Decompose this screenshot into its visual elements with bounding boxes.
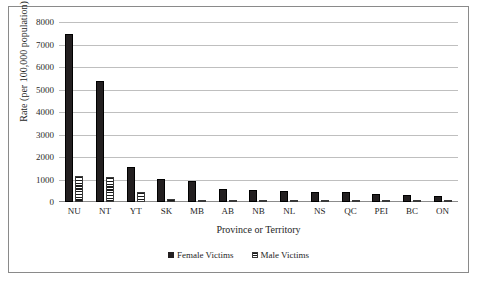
- bar-group: [243, 22, 274, 202]
- legend-item-male: Male Victims: [252, 250, 310, 260]
- x-tick-label: AB: [212, 206, 243, 216]
- bar-female: [188, 181, 196, 202]
- bar-female: [157, 179, 165, 202]
- bar-group: [427, 22, 458, 202]
- x-tick-label: BC: [397, 206, 428, 216]
- x-tick-label: SK: [151, 206, 182, 216]
- bar-female: [219, 189, 227, 202]
- bar-male: [444, 200, 452, 202]
- bar-group: [59, 22, 90, 202]
- x-tick-label: YT: [120, 206, 151, 216]
- y-tick-label: 2000: [36, 153, 54, 162]
- bar-male: [413, 200, 421, 202]
- x-tick-label: NT: [90, 206, 121, 216]
- bar-male: [290, 200, 298, 202]
- bar-group: [335, 22, 366, 202]
- y-tick-label: 8000: [36, 18, 54, 27]
- chart-figure: Rate (per 100,000 population) 8000 7000 …: [0, 0, 477, 285]
- y-tick-label: 7000: [36, 41, 54, 50]
- y-tick-label: 0: [50, 198, 55, 207]
- bar-male: [137, 192, 145, 202]
- bar-female: [65, 34, 73, 202]
- y-tick-label: 1000: [36, 176, 54, 185]
- bar-group: [151, 22, 182, 202]
- x-tick-label: PEI: [366, 206, 397, 216]
- y-tick-label: 6000: [36, 63, 54, 72]
- bar-male: [229, 200, 237, 202]
- y-axis-tick-labels: 8000 7000 6000 5000 4000 3000 2000 1000 …: [20, 22, 54, 202]
- x-tick-label: NL: [274, 206, 305, 216]
- bar-female: [249, 190, 257, 202]
- bar-male: [106, 177, 114, 202]
- bar-male: [352, 200, 360, 202]
- x-tick-label: QC: [335, 206, 366, 216]
- bar-female: [342, 192, 350, 202]
- y-tick-label: 4000: [36, 108, 54, 117]
- bar-male: [382, 200, 390, 202]
- legend-swatch-female-icon: [168, 252, 174, 258]
- bar-female: [434, 196, 442, 202]
- bar-female: [280, 191, 288, 202]
- chart-legend: Female Victims Male Victims: [0, 250, 477, 260]
- bar-group: [397, 22, 428, 202]
- x-axis-tick-labels: NUNTYTSKMBABNBNLNSQCPEIBCON: [59, 206, 458, 216]
- bar-male: [167, 199, 175, 202]
- bar-group: [305, 22, 336, 202]
- bar-group: [274, 22, 305, 202]
- plot-area: [59, 22, 458, 202]
- bar-group: [120, 22, 151, 202]
- bar-group: [212, 22, 243, 202]
- x-tick-label: NS: [305, 206, 336, 216]
- legend-item-female: Female Victims: [168, 250, 234, 260]
- bar-group: [90, 22, 121, 202]
- bar-groups: [59, 22, 458, 202]
- legend-label-male: Male Victims: [261, 250, 310, 260]
- y-tick-label: 5000: [36, 86, 54, 95]
- bar-male: [75, 176, 83, 202]
- x-tick-label: NB: [243, 206, 274, 216]
- x-axis-title: Province or Territory: [59, 224, 458, 235]
- x-tick-label: ON: [427, 206, 458, 216]
- x-tick-label: MB: [182, 206, 213, 216]
- bar-male: [321, 200, 329, 202]
- legend-swatch-male-icon: [252, 252, 258, 258]
- bar-female: [96, 81, 104, 202]
- bar-group: [182, 22, 213, 202]
- bar-female: [403, 195, 411, 202]
- legend-label-female: Female Victims: [177, 250, 234, 260]
- bar-male: [259, 200, 267, 202]
- y-tick-label: 3000: [36, 131, 54, 140]
- bar-group: [366, 22, 397, 202]
- bar-male: [198, 200, 206, 202]
- bar-female: [127, 167, 135, 202]
- x-tick-label: NU: [59, 206, 90, 216]
- bar-female: [311, 192, 319, 202]
- bar-female: [372, 194, 380, 202]
